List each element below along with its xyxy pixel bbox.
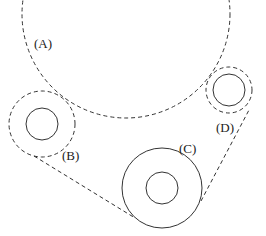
circle-d-inner: [213, 74, 245, 106]
label-a: (A): [34, 36, 52, 52]
circle-a-dashed: [22, 0, 230, 118]
circle-c-inner: [146, 172, 178, 204]
belt-b-to-c: [34, 156, 135, 218]
label-d: (D): [216, 120, 234, 136]
circle-c-outer: [122, 148, 202, 228]
circle-b-inner: [26, 108, 58, 140]
label-c: (C): [179, 141, 196, 157]
label-b: (B): [62, 148, 79, 164]
